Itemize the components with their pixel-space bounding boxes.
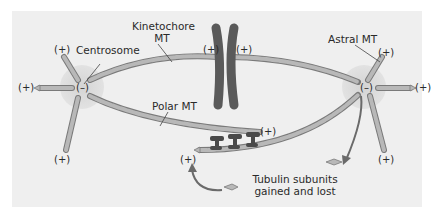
polar-mt-label: Polar MT bbox=[152, 100, 197, 112]
plus-left-top-astral: (+) bbox=[54, 44, 70, 56]
mitotic-spindle-diagram: Kinetochore MT Centrosome Astral MT Pola… bbox=[0, 0, 448, 216]
plus-polar-upper: (+) bbox=[260, 126, 276, 138]
diagram-graphics bbox=[0, 0, 448, 216]
centrosome-label: Centrosome bbox=[76, 44, 140, 56]
astral-mt-label: Astral MT bbox=[328, 33, 377, 45]
minus-left-centrosome: (–) bbox=[76, 82, 89, 94]
plus-left-horizontal-astral: (+) bbox=[18, 82, 34, 94]
plus-right-top-astral: (+) bbox=[378, 47, 394, 59]
plus-kinetochore-right: (+) bbox=[236, 44, 252, 56]
plus-right-bottom-astral: (+) bbox=[378, 154, 394, 166]
minus-right-centrosome: (–) bbox=[360, 82, 373, 94]
plus-right-horizontal-astral: (+) bbox=[415, 82, 431, 94]
tubulin-label: Tubulin subunits gained and lost bbox=[240, 173, 350, 197]
plus-kinetochore-left: (+) bbox=[203, 44, 219, 56]
kinetochore-mt-label: Kinetochore MT bbox=[132, 20, 192, 44]
plus-polar-lower: (+) bbox=[180, 154, 196, 166]
plus-left-bottom-astral: (+) bbox=[54, 154, 70, 166]
